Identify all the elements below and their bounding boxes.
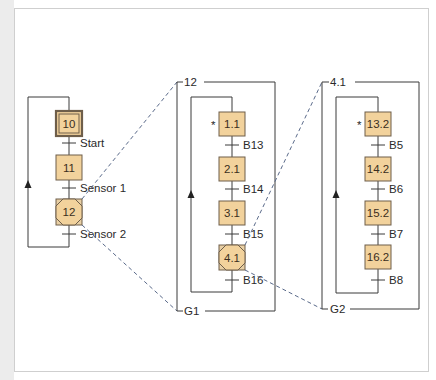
macro-12-loop-arrow-icon <box>188 190 195 198</box>
step-1-1-entry-marker: * <box>211 119 216 131</box>
step-1-1[interactable]: 1.1 <box>219 112 245 136</box>
step-15-2[interactable]: 15.2 <box>365 201 391 225</box>
transition-label-b5: B5 <box>389 139 403 151</box>
macro-12-exit-label: G1 <box>184 305 199 317</box>
expansion-line-4-1-top <box>245 82 322 245</box>
transition-label-start: Start <box>80 137 105 149</box>
step-12-label: 12 <box>63 206 76 218</box>
macro-4-1-entry-label: 4.1 <box>330 76 346 88</box>
transition-label-sensor-2: Sensor 2 <box>80 228 126 240</box>
macro-12-entry-label: 12 <box>184 76 197 88</box>
transition-label-b7: B7 <box>389 228 403 240</box>
step-11-label: 11 <box>63 162 75 174</box>
macro-4-1-exit-label: G2 <box>330 303 345 315</box>
transition-label-b8: B8 <box>389 274 403 286</box>
step-4-1-macro[interactable]: 4.1 <box>219 245 245 270</box>
step-14-2[interactable]: 14.2 <box>365 157 391 181</box>
step-10[interactable]: 10 <box>56 111 82 136</box>
transition-label-b15: B15 <box>243 228 263 240</box>
step-16-2[interactable]: 16.2 <box>365 245 391 269</box>
transition-label-b14: B14 <box>243 183 264 195</box>
step-4-1-label: 4.1 <box>224 252 240 264</box>
step-12-macro[interactable]: 12 <box>56 199 82 225</box>
step-16-2-label: 16.2 <box>367 251 389 263</box>
step-1-1-label: 1.1 <box>224 118 240 130</box>
transition-label-b6: B6 <box>389 183 403 195</box>
step-3-1-label: 3.1 <box>224 207 240 219</box>
step-11[interactable]: 11 <box>56 155 82 180</box>
transition-label-b16: B16 <box>243 274 263 286</box>
step-2-1[interactable]: 2.1 <box>219 157 245 181</box>
sfc-diagram: 10 11 12 Start Sensor 1 Sensor 2 12 G1 *… <box>0 0 436 380</box>
transition-label-b13: B13 <box>243 139 263 151</box>
step-2-1-label: 2.1 <box>224 163 240 175</box>
loop-arrow-icon <box>25 180 32 188</box>
step-15-2-label: 15.2 <box>367 207 389 219</box>
step-13-2-entry-marker: * <box>357 119 362 131</box>
step-3-1[interactable]: 3.1 <box>219 201 245 225</box>
step-13-2-label: 13.2 <box>367 118 389 130</box>
step-10-label: 10 <box>63 118 76 130</box>
step-13-2[interactable]: 13.2 <box>365 112 391 136</box>
macro-4-1-loop-arrow-icon <box>333 190 340 198</box>
step-14-2-label: 14.2 <box>367 163 389 175</box>
